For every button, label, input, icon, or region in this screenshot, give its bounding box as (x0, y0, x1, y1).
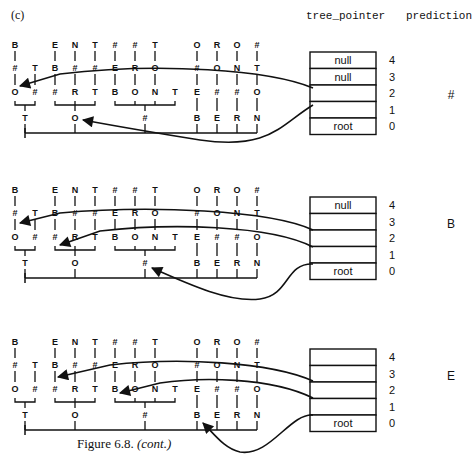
panel-2: B#OT#EB#N#RT#T#EB#ROTONTO#EBRO#EON#R#TON… (11, 185, 455, 300)
tree-node: # (12, 360, 17, 370)
stack-cell-value: root (334, 417, 353, 429)
stack-cell-2 (310, 382, 376, 399)
tree-node: O (253, 384, 260, 394)
stack-cell-1 (310, 399, 376, 416)
tree-node: T (152, 185, 158, 195)
tree-node: N (72, 40, 79, 50)
tree-node: O (253, 87, 260, 97)
tree-node: R (234, 113, 241, 123)
pointer-arrow (20, 68, 313, 88)
tree-node: T (32, 208, 38, 218)
tree-node: T (172, 232, 178, 242)
tree-node: # (52, 87, 57, 97)
tree-node: O (11, 232, 18, 242)
tree-node: # (32, 384, 37, 394)
tree-node: O (193, 40, 200, 50)
tree-node: # (194, 63, 199, 73)
stack-cell-4 (310, 349, 376, 366)
group-node: # (142, 258, 147, 268)
tree-node: O (213, 63, 220, 73)
tree-node: T (172, 384, 178, 394)
tree-node: R (72, 384, 79, 394)
tree-node: N (72, 185, 79, 195)
tree-node: O (131, 232, 138, 242)
tree-node: # (32, 87, 37, 97)
tree-node: T (32, 63, 38, 73)
tree-node: B (112, 384, 119, 394)
tree-node: T (152, 337, 158, 347)
tree-node: T (32, 360, 38, 370)
stack-index: 3 (389, 71, 395, 83)
tree-node: E (52, 337, 58, 347)
tree-node: # (214, 384, 219, 394)
tree-node: O (233, 40, 240, 50)
prediction-value: # (448, 88, 455, 102)
tree-node: B (12, 185, 19, 195)
tree-node: R (132, 360, 139, 370)
tree-node: B (12, 40, 19, 50)
tree-node: # (92, 208, 97, 218)
tree-node: # (112, 337, 117, 347)
tree-node: # (234, 87, 239, 97)
prediction-value: E (447, 369, 455, 383)
stack-index: 1 (389, 401, 395, 413)
tree-node: B (194, 410, 201, 420)
tree-node: O (233, 185, 240, 195)
tree-node: # (132, 337, 137, 347)
tree-node: # (12, 63, 17, 73)
tree-node: # (234, 384, 239, 394)
group-node: O (71, 113, 78, 123)
stack-index: 2 (389, 384, 395, 396)
caption-text: Figure 6.8. (77, 436, 137, 451)
tree-node: N (152, 232, 159, 242)
tree-node: B (112, 232, 119, 242)
tree-node: # (112, 185, 117, 195)
tree-node: T (254, 360, 260, 370)
stack-index: 3 (389, 368, 395, 380)
tree-node: O (233, 337, 240, 347)
tree-node: O (11, 384, 18, 394)
tree-node: # (72, 360, 77, 370)
tree-node: T (92, 87, 98, 97)
tree-node: E (52, 40, 58, 50)
tree-node: R (234, 410, 241, 420)
tree-node: T (254, 63, 260, 73)
tree-node: B (52, 63, 59, 73)
tree-node: E (194, 87, 200, 97)
tree-node: O (213, 360, 220, 370)
tree-node: N (72, 337, 79, 347)
tree-node: B (12, 337, 19, 347)
group-node: O (71, 258, 78, 268)
stack-index: 4 (389, 351, 395, 363)
tree-node: B (112, 87, 119, 97)
stack-index: 1 (389, 104, 395, 116)
tree-node: B (194, 113, 201, 123)
tree-node: E (194, 384, 200, 394)
stack-index: 4 (389, 199, 395, 211)
tree-node: N (152, 87, 159, 97)
stack-cell-value: null (334, 71, 351, 83)
context-tree-diagram: B#OT#EB#N#RT#T#EB#ROTONTO#EBRO#EON#R#TON… (0, 0, 476, 461)
prediction-value: B (447, 217, 455, 231)
tree-node: N (254, 410, 261, 420)
tree-node: T (92, 337, 98, 347)
tree-node: B (194, 258, 201, 268)
tree-node: # (52, 232, 57, 242)
tree-node: E (52, 185, 58, 195)
pointer-arrow (203, 415, 313, 452)
stack-cell-2 (310, 230, 376, 247)
stack-index: 4 (389, 54, 395, 66)
pointer-arrow (83, 105, 313, 142)
stack-index: 1 (389, 249, 395, 261)
panel-1: B#OT#EB#N#RT#T#EB#ROTONTO#EBRO#EON#R#TON… (11, 40, 454, 142)
tree-node: # (32, 232, 37, 242)
tree-node: O (213, 208, 220, 218)
tree-node: E (214, 258, 220, 268)
group-node: # (142, 113, 147, 123)
tree-node: T (92, 384, 98, 394)
tree-node: # (112, 40, 117, 50)
stack-cell-value: root (334, 120, 353, 132)
group-node: T (22, 258, 28, 268)
stack-cell-2 (310, 85, 376, 102)
tree-node: # (234, 232, 239, 242)
